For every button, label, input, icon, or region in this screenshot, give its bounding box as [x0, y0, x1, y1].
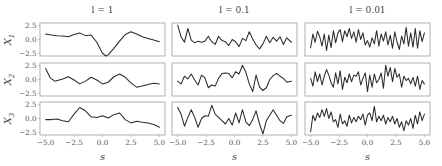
y-tick-label: 2.5	[25, 100, 37, 109]
subplot	[305, 63, 430, 96]
column-title: l = 0.1	[219, 5, 249, 15]
row-label: X2	[2, 73, 16, 86]
x-tick-label: 2.5	[257, 138, 269, 147]
series-line	[178, 25, 292, 49]
panel-frame	[40, 23, 165, 56]
panel-grid: 2.50.0−2.52.50.0−2.52.50.0−2.5−5.0−2.50.…	[19, 21, 430, 147]
y-tick-label: 2.5	[25, 61, 37, 70]
series-line	[311, 27, 425, 50]
panel-frame	[40, 102, 165, 135]
subplot	[172, 63, 297, 96]
subplot: −5.0−2.50.02.55.0	[169, 102, 298, 147]
subplot	[172, 23, 297, 56]
series-line	[178, 105, 292, 134]
series-line	[46, 69, 160, 88]
x-axis-labels: sss	[100, 151, 370, 162]
x-axis-label: s	[100, 151, 105, 162]
x-tick-label: 0.0	[362, 138, 374, 147]
y-tick-label: 2.5	[25, 21, 37, 30]
series-line	[311, 106, 425, 131]
subplot: −5.0−2.50.02.55.0	[302, 102, 431, 147]
x-tick-label: −2.5	[330, 138, 348, 147]
series-line	[46, 32, 160, 56]
subplot	[305, 23, 430, 56]
subplot: 2.50.0−2.5−5.0−2.50.02.55.0	[19, 100, 165, 147]
x-tick-label: −5.0	[169, 138, 187, 147]
row-label: X1	[2, 34, 16, 47]
subplot: 2.50.0−2.5	[19, 61, 165, 98]
x-tick-label: 5.0	[154, 138, 166, 147]
column-title: l = 1	[92, 5, 114, 15]
series-line	[178, 65, 292, 91]
x-tick-label: 5.0	[286, 138, 298, 147]
y-tick-label: 0.0	[25, 35, 37, 44]
x-tick-label: −5.0	[302, 138, 320, 147]
x-tick-label: 2.5	[390, 138, 402, 147]
column-title: l = 0.01	[349, 5, 385, 15]
row-labels: X1X2X3	[2, 34, 16, 126]
y-tick-label: −2.5	[19, 49, 37, 58]
y-tick-label: −2.5	[19, 89, 37, 98]
x-tick-label: −5.0	[37, 138, 55, 147]
y-tick-label: 0.0	[25, 75, 37, 84]
row-label: X3	[2, 112, 16, 125]
series-line	[46, 108, 160, 128]
series-line	[311, 65, 425, 91]
column-titles: l = 1l = 0.1l = 0.01	[92, 5, 386, 15]
y-tick-label: −2.5	[19, 128, 37, 137]
x-tick-label: 0.0	[97, 138, 109, 147]
x-axis-label: s	[232, 151, 237, 162]
x-tick-label: 5.0	[419, 138, 431, 147]
panel-frame	[172, 63, 297, 96]
figure: l = 1l = 0.1l = 0.01 2.50.0−2.52.50.0−2.…	[0, 0, 442, 166]
x-tick-label: 0.0	[229, 138, 241, 147]
x-tick-label: −2.5	[65, 138, 83, 147]
y-tick-label: 0.0	[25, 114, 37, 123]
x-tick-label: 2.5	[125, 138, 137, 147]
x-tick-label: −2.5	[197, 138, 215, 147]
subplot: 2.50.0−2.5	[19, 21, 165, 58]
x-axis-label: s	[365, 151, 370, 162]
